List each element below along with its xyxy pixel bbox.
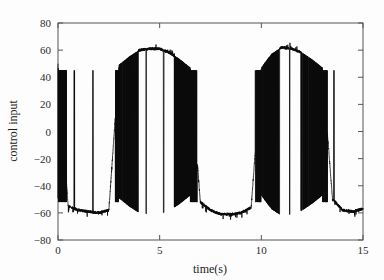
y-tick-label: 20 xyxy=(40,98,52,110)
y-tick-label: 40 xyxy=(40,71,52,83)
y-tick-label: −60 xyxy=(34,207,52,219)
y-axis-label: control input xyxy=(6,100,20,162)
x-tick-label: 0 xyxy=(55,244,61,256)
y-axis-tick-labels: 806040200−20−40−60−80 xyxy=(34,17,52,246)
x-axis-label: time(s) xyxy=(193,262,227,276)
y-tick-label: −40 xyxy=(34,180,52,192)
y-tick-label: −20 xyxy=(34,153,52,165)
x-tick-label: 5 xyxy=(157,244,163,256)
series-control-input xyxy=(58,43,363,220)
y-tick-label: 0 xyxy=(46,126,52,138)
x-axis-tick-labels: 051015 xyxy=(55,244,369,256)
y-tick-label: −80 xyxy=(34,234,52,246)
control-input-plot: 806040200−20−40−60−80 051015 time(s) con… xyxy=(0,0,384,280)
x-tick-label: 10 xyxy=(256,244,268,256)
x-tick-label: 15 xyxy=(358,244,370,256)
y-tick-label: 60 xyxy=(40,44,52,56)
chart-figure: 806040200−20−40−60−80 051015 time(s) con… xyxy=(0,0,384,280)
y-tick-label: 80 xyxy=(40,17,52,29)
series-line-control-input xyxy=(58,43,363,220)
